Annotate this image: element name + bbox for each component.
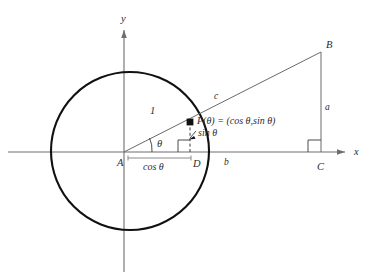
sin-measure-label: sin θ bbox=[198, 127, 217, 138]
vertex-label-b: B bbox=[326, 39, 333, 50]
right-angle-marker-d bbox=[178, 140, 190, 152]
triangle-abc bbox=[124, 52, 321, 152]
radius-length-label: 1 bbox=[150, 105, 155, 116]
hypotenuse-length-label: c bbox=[214, 91, 219, 101]
vertex-label-c: C bbox=[317, 161, 325, 172]
axes-group: x y bbox=[8, 13, 359, 272]
x-axis-label: x bbox=[353, 146, 359, 157]
point-p-equation-label: P(θ) = (cos θ,sin θ) bbox=[196, 115, 276, 127]
y-axis-label: y bbox=[120, 13, 126, 24]
unit-circle bbox=[51, 72, 209, 230]
angle-theta-label: θ bbox=[157, 138, 162, 149]
side-b-length-label: b bbox=[224, 157, 229, 167]
unit-circle-diagram: x y θ 1 c a b P(θ) = (cos θ,sin θ) sin θ… bbox=[0, 0, 377, 280]
hypotenuse-ab bbox=[124, 52, 321, 152]
vertex-label-a: A bbox=[116, 157, 124, 168]
vertex-label-d: D bbox=[192, 158, 201, 169]
cos-measure-group: cos θ bbox=[128, 156, 191, 173]
angle-theta-arc bbox=[150, 138, 153, 152]
side-a-length-label: a bbox=[325, 102, 330, 112]
x-axis-arrowhead bbox=[337, 149, 345, 155]
y-axis-arrowhead bbox=[121, 30, 127, 38]
cos-measure-label: cos θ bbox=[143, 161, 164, 172]
right-angle-marker-c bbox=[308, 140, 321, 152]
point-p-marker bbox=[187, 119, 194, 126]
